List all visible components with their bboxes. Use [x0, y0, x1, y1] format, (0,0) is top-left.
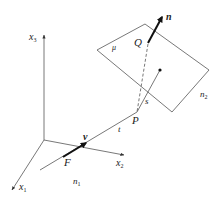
x2-axis: [44, 140, 124, 155]
n1-label: n1: [73, 176, 81, 187]
x1-axis: [12, 140, 44, 190]
plane-mu: [97, 24, 209, 112]
vector-n-label: n: [166, 11, 172, 22]
param-t-label: t: [118, 124, 121, 134]
x2-label: x2: [115, 157, 123, 169]
vector-v: [63, 143, 86, 157]
vector-n: [148, 17, 162, 43]
point-P-label: P: [131, 114, 139, 126]
vector-v-label: v: [83, 131, 88, 142]
line-l: [40, 112, 137, 170]
param-s-label: s: [145, 96, 149, 106]
point-F-label: F: [63, 156, 71, 168]
plane-point: [158, 68, 161, 71]
x1-label: x1: [18, 181, 26, 193]
n2-label: n2: [200, 89, 208, 100]
geometry-diagram: x3 x1 x2 F P Q v n t s μ n1 n2: [0, 0, 219, 204]
point-Q-label: Q: [134, 36, 142, 48]
plane-mu-label: μ: [111, 43, 116, 52]
x3-label: x3: [28, 31, 36, 43]
